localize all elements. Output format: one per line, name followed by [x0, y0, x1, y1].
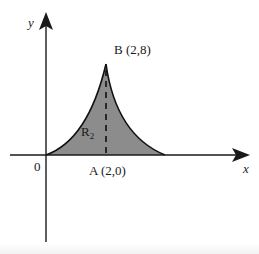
diagram-figure: y x 0 B (2,8) A (2,0) R2 — [0, 0, 259, 254]
page-edge-shade — [0, 243, 259, 254]
region-label-main: R — [81, 124, 90, 139]
point-b-label: B (2,8) — [114, 43, 151, 56]
y-axis-label: y — [28, 16, 34, 29]
diagram-canvas — [0, 0, 259, 254]
origin-label: 0 — [34, 160, 41, 173]
region-label-subscript: 2 — [90, 131, 95, 141]
region-r2-label: R2 — [81, 125, 94, 141]
point-a-label: A (2,0) — [89, 164, 126, 177]
x-axis-label: x — [243, 162, 249, 175]
